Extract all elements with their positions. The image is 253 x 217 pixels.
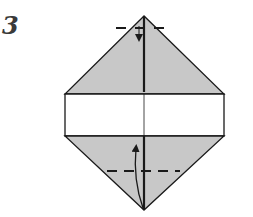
middle-band	[65, 94, 224, 136]
origami-diagram	[0, 0, 253, 217]
